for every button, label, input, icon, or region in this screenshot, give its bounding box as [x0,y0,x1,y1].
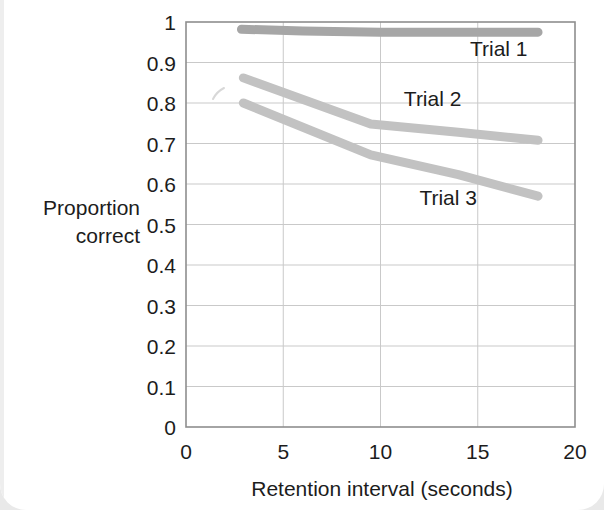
x-axis-title: Retention interval (seconds) [251,477,512,500]
series-line-trial-3 [243,103,538,196]
x-axis-tick-labels: 05101520 [180,440,587,463]
y-axis-title-line1: Proportion [43,196,140,219]
y-tick-label: 0.2 [147,335,176,358]
series-line-trial-1 [241,29,538,32]
y-tick-label: 1 [164,11,176,34]
y-tick-label: 0.7 [147,133,176,156]
figure-card: 00.10.20.30.40.50.60.70.80.91 05101520 T… [0,0,604,510]
chart-stage: 00.10.20.30.40.50.60.70.80.91 05101520 T… [0,0,604,510]
y-tick-label: 0.9 [147,52,176,75]
x-tick-label: 10 [369,440,392,463]
y-tick-label: 0.8 [147,92,176,115]
y-axis-tick-labels: 00.10.20.30.40.50.60.70.80.91 [147,11,177,439]
series-annotations: Trial 1Trial 2Trial 3 [404,37,528,209]
y-axis-title-line2: correct [76,224,140,247]
line-chart: 00.10.20.30.40.50.60.70.80.91 05101520 T… [0,0,604,510]
y-tick-label: 0.3 [147,295,176,318]
x-tick-label: 15 [466,440,489,463]
series-line-trial-2 [243,78,538,140]
y-tick-label: 0.4 [147,254,177,277]
y-tick-label: 0.6 [147,173,176,196]
y-tick-label: 0.1 [147,376,176,399]
x-tick-label: 20 [563,440,586,463]
scan-artifact [213,88,224,99]
y-tick-label: 0.5 [147,214,176,237]
y-tick-label: 0 [164,416,176,439]
series-label-trial-1: Trial 1 [470,37,528,60]
series-label-trial-2: Trial 2 [404,87,462,110]
x-tick-label: 5 [277,440,289,463]
x-tick-label: 0 [180,440,192,463]
series-label-trial-3: Trial 3 [419,186,477,209]
